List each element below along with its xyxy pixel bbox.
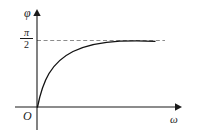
fraction-denominator: 2 [18, 39, 35, 50]
phase-response-curve [38, 41, 156, 107]
y-axis-tick-label-pi-over-two: π 2 [18, 27, 35, 50]
y-axis-arrowhead-icon [33, 9, 40, 16]
origin-label: O [23, 110, 32, 122]
x-axis-arrowhead-icon [175, 103, 182, 111]
figure-container: π 2 φ ω O [0, 0, 197, 137]
fraction-numerator: π [18, 27, 35, 38]
x-axis-label-omega: ω [170, 114, 178, 125]
y-axis-label-phi: φ [24, 7, 31, 19]
